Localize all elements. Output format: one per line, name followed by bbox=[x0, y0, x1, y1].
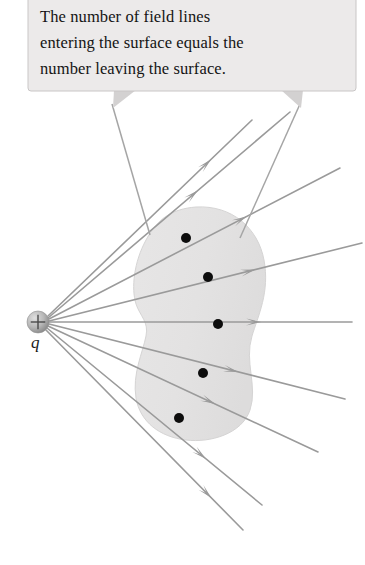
callout-text: The number of field lines entering the s… bbox=[40, 4, 346, 82]
dot-5 bbox=[174, 413, 184, 423]
figure-canvas: The number of field lines entering the s… bbox=[0, 0, 365, 565]
charge-label: q bbox=[31, 333, 40, 353]
point-charge bbox=[27, 311, 49, 333]
dot-1 bbox=[181, 233, 191, 243]
diagram-scene bbox=[0, 0, 365, 565]
callout-line-2: entering the surface equals the bbox=[40, 30, 346, 56]
gaussian-surface bbox=[134, 207, 266, 441]
dot-2 bbox=[203, 272, 213, 282]
dot-4 bbox=[198, 368, 208, 378]
dot-3 bbox=[213, 319, 223, 329]
callout-tails bbox=[113, 90, 303, 108]
callout-line-1: The number of field lines bbox=[40, 4, 346, 30]
callout-line-3: number leaving the surface. bbox=[40, 56, 346, 82]
